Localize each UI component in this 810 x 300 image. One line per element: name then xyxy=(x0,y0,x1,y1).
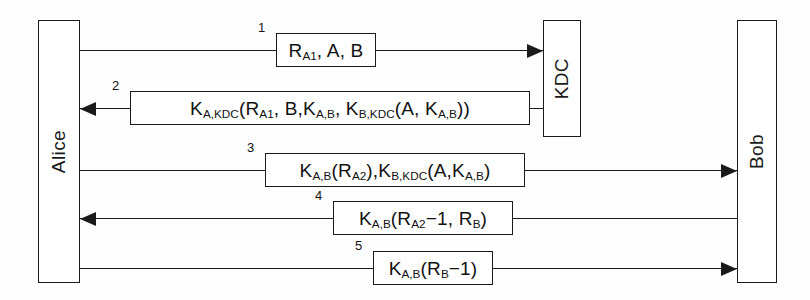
party-label-alice: Alice xyxy=(48,130,70,173)
flow-line-1-right xyxy=(376,50,543,51)
flow-line-5-left xyxy=(80,268,373,269)
message-box-2: KA,KDC(RA1, B,KA,B, KB,KDC(A, KA,B)) xyxy=(130,91,530,125)
arrowhead-right-3 xyxy=(721,164,737,178)
step-number-4: 4 xyxy=(315,188,322,203)
message-box-3: KA,B(RA2),KB,KDC(A,KA,B) xyxy=(265,153,525,187)
arrowhead-left-4 xyxy=(80,212,96,226)
message-formula: KA,B(RA2),KB,KDC(A,KA,B) xyxy=(300,161,491,180)
step-number-1: 1 xyxy=(258,20,265,35)
step-number-5: 5 xyxy=(355,238,362,253)
flow-line-3-left xyxy=(80,170,265,171)
party-box-bob: Bob xyxy=(737,20,777,283)
arrowhead-right-5 xyxy=(721,262,737,276)
party-box-alice: Alice xyxy=(38,20,80,283)
message-formula: KA,B(RA2−1, RB) xyxy=(359,209,487,228)
step-number-3: 3 xyxy=(247,140,254,155)
flow-line-1-left xyxy=(80,50,276,51)
flow-line-2-right xyxy=(530,108,543,109)
message-box-4: KA,B(RA2−1, RB) xyxy=(333,201,513,235)
party-label-bob: Bob xyxy=(746,134,768,169)
protocol-sequence-diagram: AliceKDCBobRA1, A, B1KA,KDC(RA1, B,KA,B,… xyxy=(0,0,810,300)
message-formula: KA,KDC(RA1, B,KA,B, KB,KDC(A, KA,B)) xyxy=(190,99,470,118)
arrowhead-left-2 xyxy=(80,102,96,116)
flow-line-4-left xyxy=(80,218,333,219)
flow-line-3-right xyxy=(525,170,737,171)
message-formula: KA,B(RB−1) xyxy=(389,259,478,278)
flow-line-4-right xyxy=(513,218,737,219)
party-label-kdc: KDC xyxy=(551,58,573,99)
flow-line-5-right xyxy=(493,268,737,269)
party-box-kdc: KDC xyxy=(543,20,581,137)
arrowhead-right-1 xyxy=(527,44,543,58)
message-box-5: KA,B(RB−1) xyxy=(373,251,493,285)
step-number-2: 2 xyxy=(112,78,119,93)
message-formula: RA1, A, B xyxy=(289,41,364,60)
message-box-1: RA1, A, B xyxy=(276,33,376,67)
